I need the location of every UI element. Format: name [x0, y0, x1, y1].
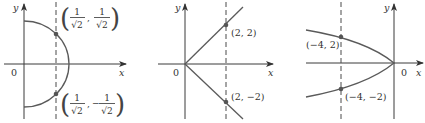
- point-marker: [54, 32, 59, 37]
- point-marker: [224, 23, 229, 28]
- svg-text:−: −: [92, 98, 100, 108]
- point-label-top: (−4, 2): [306, 39, 340, 50]
- x-axis-label: x: [416, 67, 422, 78]
- origin-label: 0: [401, 67, 407, 78]
- svg-text:,: ,: [87, 99, 90, 109]
- point-marker: [339, 87, 344, 92]
- point-label-bottom: (2, −2): [231, 91, 265, 102]
- panel-semicircle: y x 0 ( 1 √2 , 1 √2 ) ( 1 √2 , − 1: [4, 2, 126, 121]
- point-label-bottom: (−4, −2): [345, 91, 386, 102]
- svg-text:(: (: [60, 89, 70, 119]
- point-label-top: (2, 2): [231, 27, 257, 38]
- svg-text:√2: √2: [101, 106, 112, 116]
- svg-text:1: 1: [99, 7, 105, 17]
- svg-text:): ): [115, 89, 125, 119]
- y-axis-label: y: [383, 2, 390, 13]
- svg-text:1: 1: [74, 7, 80, 17]
- svg-text:1: 1: [104, 93, 110, 103]
- y-axis-label: y: [12, 2, 19, 13]
- svg-text:√2: √2: [96, 20, 107, 30]
- point-label-bottom: ( 1 √2 , − 1 √2 ): [60, 89, 125, 119]
- point-label-top: ( 1 √2 , 1 √2 ): [60, 3, 120, 33]
- x-axis-label: x: [119, 67, 125, 78]
- x-axis-label: x: [268, 67, 274, 78]
- svg-text:(: (: [60, 3, 70, 33]
- point-marker: [224, 100, 229, 105]
- svg-text:√2: √2: [71, 106, 82, 116]
- svg-text:1: 1: [74, 93, 80, 103]
- figure: y x 0 ( 1 √2 , 1 √2 ) ( 1 √2 , − 1: [0, 0, 425, 123]
- point-marker: [54, 92, 59, 97]
- panel-parabola: y x 0 (−4, 2) (−4, −2): [306, 2, 423, 121]
- svg-text:): ): [110, 3, 120, 33]
- svg-text:,: ,: [87, 13, 90, 23]
- origin-label: 0: [173, 67, 179, 78]
- svg-text:√2: √2: [71, 20, 82, 30]
- y-axis-label: y: [174, 2, 181, 13]
- panel-absolute-value: y x 0 (2, 2) (2, −2): [158, 2, 274, 121]
- origin-label: 0: [11, 67, 17, 78]
